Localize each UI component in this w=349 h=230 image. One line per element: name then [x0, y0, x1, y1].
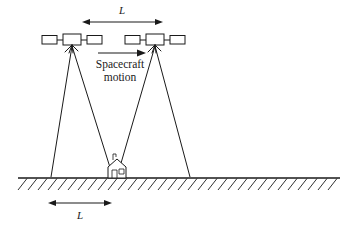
spacecraft-right: [125, 34, 185, 53]
ground-hatching: [18, 179, 337, 191]
spacecraft-left-solar-panel-right: [87, 36, 102, 45]
ground-baseline-dimension: L: [48, 200, 112, 221]
ground-dimension-arrow-left: [48, 200, 56, 206]
spacecraft-left-bus: [63, 34, 81, 45]
spacecraft-left-solar-panel-left: [42, 36, 57, 45]
spacecraft-right-solar-panel-left: [125, 36, 140, 45]
figure-container: L Spacecraft motion L: [0, 0, 349, 230]
spacecraft-motion-arrow: [98, 50, 146, 57]
motion-label-line1: Spacecraft: [96, 58, 145, 71]
ground-target-house: [108, 154, 126, 178]
ground-dimension-arrow-right: [104, 200, 112, 206]
spacecraft-left: [42, 34, 102, 53]
spacecraft-motion-label: Spacecraft motion: [96, 58, 145, 83]
ground-group: [18, 178, 340, 190]
top-dimension-arrow-left: [82, 19, 90, 25]
motion-label-line2: motion: [104, 71, 137, 83]
beam-right-edge-right: [155, 46, 190, 177]
spacecraft-right-bus: [146, 34, 164, 45]
ground-baseline-label: L: [76, 209, 83, 221]
top-baseline-label: L: [118, 4, 125, 16]
spacecraft-right-solar-panel-right: [170, 36, 185, 45]
motion-arrow-head: [137, 50, 146, 57]
top-dimension-arrow-right: [155, 19, 163, 25]
spacecraft-geometry-diagram: L Spacecraft motion L: [0, 0, 349, 230]
house-chimney: [113, 154, 116, 160]
beam-left-edge-left: [51, 46, 72, 177]
top-baseline-dimension: L: [82, 4, 163, 25]
